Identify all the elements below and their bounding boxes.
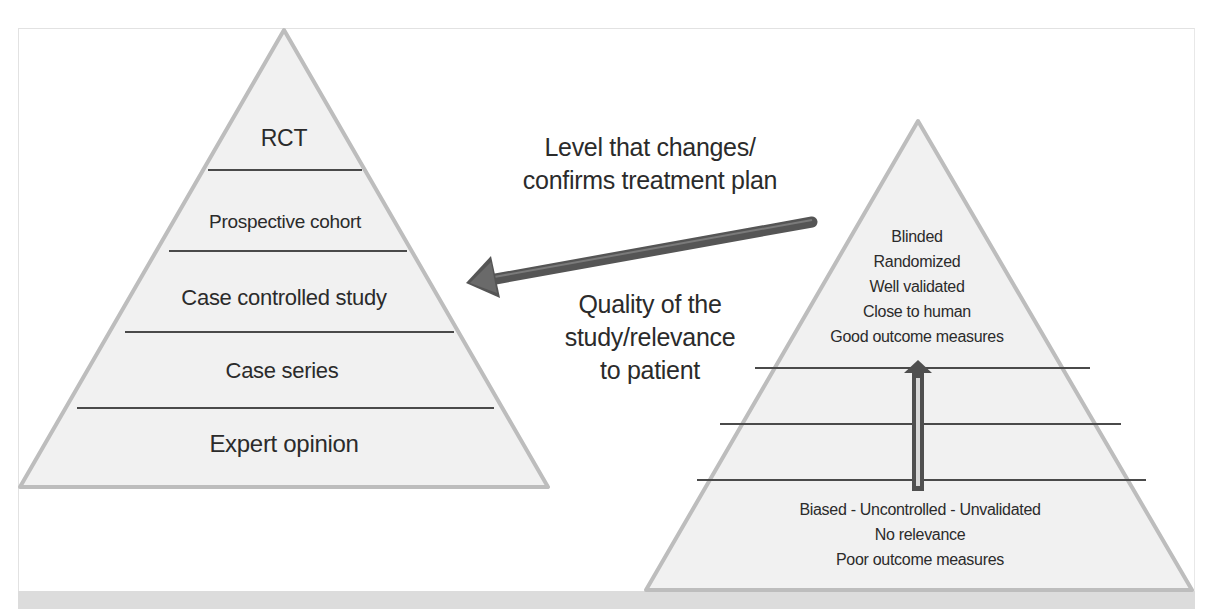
quality-bottom-criteria: Biased - Uncontrolled - Unvalidated No r… xyxy=(799,497,1040,572)
level-case-series: Case series xyxy=(226,358,339,383)
level-rct: RCT xyxy=(261,125,307,151)
level-expert-opinion: Expert opinion xyxy=(209,430,358,458)
arrow-left-icon xyxy=(466,220,812,298)
level-prospective-cohort: Prospective cohort xyxy=(209,211,361,233)
connector-label-top: Level that changes/ confirms treatment p… xyxy=(523,131,777,197)
quality-top-criteria: Blinded Randomized Well validated Close … xyxy=(830,224,1003,349)
level-case-controlled-study: Case controlled study xyxy=(181,285,386,310)
evidence-pyramid-shape xyxy=(20,30,548,487)
connector-label-bottom: Quality of the study/relevance to patien… xyxy=(565,288,736,387)
